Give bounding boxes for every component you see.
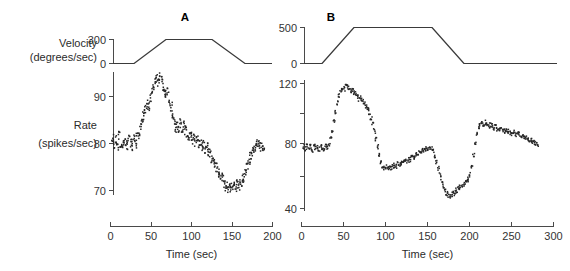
- data-point: [350, 90, 352, 92]
- data-point: [141, 123, 143, 125]
- data-point: [397, 161, 399, 163]
- data-point: [445, 194, 447, 196]
- data-point: [123, 142, 125, 144]
- data-point: [375, 132, 377, 134]
- velocity-label-line2: (degrees/sec): [30, 51, 97, 63]
- data-point: [474, 153, 476, 155]
- data-point: [159, 79, 161, 81]
- data-point: [143, 119, 145, 121]
- data-point: [334, 121, 336, 123]
- data-point: [311, 149, 313, 151]
- data-point: [111, 140, 113, 142]
- data-point: [137, 135, 139, 137]
- panel-a-rate-tick-70: 70: [94, 185, 106, 197]
- data-point: [228, 186, 230, 188]
- data-point: [438, 168, 440, 170]
- data-point: [224, 183, 226, 185]
- data-point: [507, 133, 509, 135]
- data-point: [485, 120, 487, 122]
- data-point: [433, 149, 435, 151]
- data-point: [196, 136, 198, 138]
- data-point: [472, 165, 474, 167]
- data-point: [337, 104, 339, 106]
- data-point: [171, 102, 173, 104]
- data-point: [130, 146, 132, 148]
- data-point: [481, 121, 483, 123]
- data-point: [136, 147, 138, 149]
- data-point: [148, 102, 150, 104]
- data-point: [186, 129, 188, 131]
- data-point: [220, 175, 222, 177]
- data-point: [126, 148, 128, 150]
- data-point: [310, 145, 312, 147]
- data-point: [527, 137, 529, 139]
- data-point: [466, 181, 468, 183]
- data-point: [317, 145, 319, 147]
- data-point: [185, 126, 187, 128]
- data-point: [161, 78, 163, 80]
- data-point: [113, 141, 115, 143]
- data-point: [395, 166, 397, 168]
- data-point: [329, 145, 331, 147]
- data-point: [179, 118, 181, 120]
- data-point: [253, 152, 255, 154]
- data-point: [439, 172, 441, 174]
- data-point: [321, 145, 323, 147]
- data-point: [492, 125, 494, 127]
- data-point: [410, 159, 412, 161]
- data-point: [260, 150, 262, 152]
- panel-b-time-tick-300: 300: [544, 230, 562, 242]
- data-point: [191, 135, 193, 137]
- data-point: [247, 160, 249, 162]
- data-point: [474, 143, 476, 145]
- data-point: [389, 168, 391, 170]
- data-point: [442, 183, 444, 185]
- data-point: [115, 136, 117, 138]
- data-point: [126, 143, 128, 145]
- data-point: [199, 144, 201, 146]
- data-point: [534, 141, 536, 143]
- data-point: [145, 105, 147, 107]
- data-point: [392, 165, 394, 167]
- data-point: [430, 148, 432, 150]
- data-point: [476, 134, 478, 136]
- data-point: [259, 142, 261, 144]
- data-point: [373, 128, 375, 130]
- data-point: [140, 126, 142, 128]
- data-point: [249, 162, 251, 164]
- data-point: [492, 126, 494, 128]
- data-point: [194, 145, 196, 147]
- data-point: [235, 188, 237, 190]
- data-point: [252, 155, 254, 157]
- data-point: [246, 169, 248, 171]
- data-point: [475, 142, 477, 144]
- data-point: [413, 158, 415, 160]
- data-point: [434, 155, 436, 157]
- data-point: [241, 185, 243, 187]
- data-point: [408, 161, 410, 163]
- data-point: [201, 145, 203, 147]
- data-point: [214, 162, 216, 164]
- data-point: [521, 137, 523, 139]
- data-point: [227, 192, 229, 194]
- data-point: [481, 123, 483, 125]
- data-point: [176, 126, 178, 128]
- data-point: [385, 168, 387, 170]
- data-point: [467, 177, 469, 179]
- data-point: [168, 91, 170, 93]
- data-point: [173, 117, 175, 119]
- data-point: [131, 141, 133, 143]
- data-point: [469, 172, 471, 174]
- data-point: [392, 164, 394, 166]
- panel-a-rate-points: [111, 72, 265, 193]
- data-point: [516, 133, 518, 135]
- data-point: [504, 128, 506, 130]
- data-point: [382, 167, 384, 169]
- data-point: [403, 160, 405, 162]
- data-point: [210, 152, 212, 154]
- data-point: [405, 159, 407, 161]
- data-point: [463, 185, 465, 187]
- panel-b-rate-tick-40: 40: [285, 203, 297, 215]
- data-point: [206, 147, 208, 149]
- panel-a-rate-axis: [109, 72, 114, 195]
